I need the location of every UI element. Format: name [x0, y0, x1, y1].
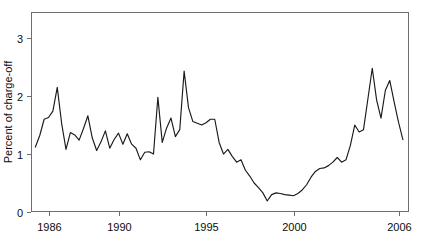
y-tick-label: 2 — [17, 91, 23, 103]
y-tick-label: 3 — [17, 33, 23, 45]
x-axis-ticks — [50, 212, 400, 216]
x-tick-label: 2006 — [387, 221, 411, 233]
y-tick-label: 1 — [17, 149, 23, 161]
x-tick-label: 1990 — [107, 221, 131, 233]
x-tick-label: 2000 — [282, 221, 306, 233]
x-tick-label: 1986 — [37, 221, 61, 233]
y-axis-tick-labels: 0123 — [17, 33, 23, 219]
line-chart: 0123 19861990199520002006 Percent of cha… — [0, 0, 427, 251]
chart-figure: 0123 19861990199520002006 Percent of cha… — [0, 0, 427, 251]
x-tick-label: 1995 — [194, 221, 218, 233]
y-tick-label: 0 — [17, 207, 23, 219]
plot-background — [31, 12, 409, 212]
x-axis-tick-labels: 19861990199520002006 — [37, 221, 411, 233]
y-axis-title: Percent of charge-off — [2, 60, 14, 163]
y-axis-ticks — [27, 39, 31, 213]
